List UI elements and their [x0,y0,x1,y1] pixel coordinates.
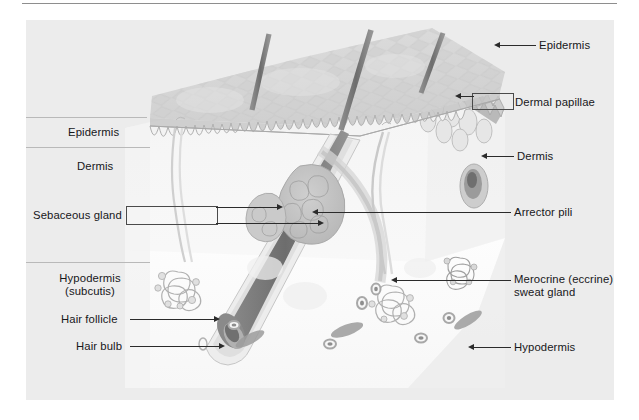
sweat-gland-leader [397,280,511,281]
label-hypodermis-left-line1: Hypodermis [50,272,130,285]
sebaceous-gland-leader-upper [216,207,279,208]
hair-follicle-leader [130,319,216,320]
dermis-right-leader [487,156,514,157]
label-epidermis-left: Epidermis [68,126,119,139]
hypodermis-right-arrow [468,344,474,350]
skin-anatomy-figure: Epidermis Dermis Sebaceous gland Hypoder… [0,0,639,420]
label-dermis-left: Dermis [77,160,113,173]
label-sweat-gland-line2: sweat gland [514,286,575,299]
arrector-pili-leader [318,212,511,213]
label-dermal-papillae: Dermal papillae [515,96,595,109]
dermal-papillae-bracket [472,93,514,110]
top-rule [22,3,617,4]
label-sweat-gland-line1: Merocrine (eccrine) [514,273,613,286]
hair-bulb-leader [130,346,221,347]
divider-epidermis-top [26,117,147,118]
label-arrector-pili: Arrector pili [514,206,572,219]
divider-hypodermis-top [26,262,150,263]
epidermis-right-arrow [494,42,500,48]
sebaceous-gland-leader-lower [216,223,320,224]
label-hypodermis-right: Hypodermis [514,341,575,354]
arrector-pili-arrow [312,209,318,215]
hair-follicle-arrow [214,316,220,322]
label-epidermis-right: Epidermis [539,39,590,52]
label-dermis-right: Dermis [517,150,553,163]
sebaceous-gland-arrow-lower [318,220,324,226]
dermal-papillae-arrow [455,93,461,99]
sweat-gland-arrow [391,277,397,283]
dermis-right-arrow [481,153,487,159]
divider-epidermis-bottom [26,147,150,148]
label-sebaceous-gland: Sebaceous gland [33,209,122,222]
label-hair-follicle: Hair follicle [61,313,118,326]
label-hair-bulb: Hair bulb [76,340,122,353]
hair-bulb-arrow [219,343,225,349]
epidermis-right-leader [500,45,536,46]
dermal-papillae-leader [460,96,474,97]
sebaceous-gland-arrow-upper [277,204,283,210]
sebaceous-gland-bracket [126,206,218,225]
hypodermis-right-leader [474,347,511,348]
label-hypodermis-left-line2: (subcutis) [50,285,130,298]
